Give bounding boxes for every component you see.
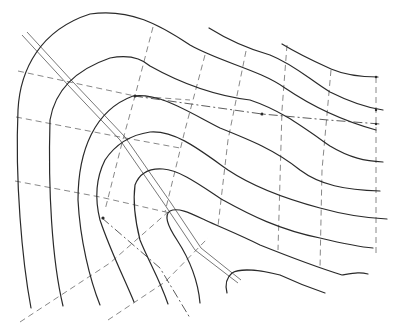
grid-line [105, 27, 153, 210]
survey-point [375, 123, 377, 125]
contour-line [78, 96, 380, 305]
grid-line [278, 45, 287, 250]
survey-point [260, 112, 263, 115]
survey-point [375, 109, 377, 111]
contour-line [167, 210, 368, 303]
profile-line [102, 218, 190, 318]
road [22, 32, 241, 283]
contour-line [17, 13, 376, 308]
grid-line [165, 55, 205, 212]
grid-line [18, 71, 190, 100]
survey-point [101, 216, 104, 219]
grid-line [20, 212, 168, 322]
contour-lines [17, 13, 387, 308]
survey-point [133, 94, 136, 97]
grid-line [15, 181, 170, 213]
contour-line [134, 169, 373, 304]
dashed-grid-horizontal [15, 71, 190, 213]
survey-point [375, 76, 377, 78]
dashed-grid-diagonal [20, 212, 208, 322]
contour-diagram [0, 0, 405, 336]
contour-line [282, 44, 378, 77]
contour-line [97, 132, 387, 302]
contour-line [226, 270, 325, 293]
profile-line [134, 96, 380, 124]
